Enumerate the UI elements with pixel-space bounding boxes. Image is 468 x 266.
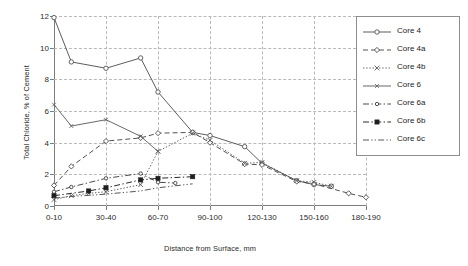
data-point xyxy=(375,66,380,71)
series-core-6 xyxy=(52,103,160,154)
data-point xyxy=(104,177,107,180)
data-point xyxy=(70,185,73,188)
data-point xyxy=(156,90,160,94)
legend-label: Core 4b xyxy=(397,62,425,71)
x-tick-label: 60-70 xyxy=(148,213,168,222)
legend-symbol-icon xyxy=(362,24,392,36)
data-point xyxy=(87,189,91,193)
legend-label: Core 6a xyxy=(397,98,425,107)
x-tick-mark xyxy=(158,206,159,210)
data-point xyxy=(363,195,368,200)
legend-label: Core 4 xyxy=(397,26,421,35)
legend-symbol-icon xyxy=(362,42,392,54)
data-point xyxy=(52,15,56,19)
x-tick-mark xyxy=(366,206,367,210)
data-point xyxy=(138,56,142,60)
data-point xyxy=(104,186,108,190)
chart-legend: Core 4Core 4aCore 4bCore 6Core 6aCore 6b… xyxy=(356,16,460,156)
legend-label: Core 6b xyxy=(397,116,425,125)
legend-symbol-icon xyxy=(362,96,392,108)
data-point xyxy=(191,175,195,179)
legend-symbol-icon xyxy=(362,60,392,72)
legend-symbol-icon xyxy=(362,132,392,144)
x-tick-label: 0-10 xyxy=(46,213,62,222)
y-tick-label: 12 xyxy=(40,12,49,21)
data-point xyxy=(139,172,142,175)
legend-label: Core 4a xyxy=(397,44,425,53)
y-tick-label: 0 xyxy=(45,202,49,211)
data-point xyxy=(375,102,378,105)
data-point xyxy=(155,131,160,136)
data-point xyxy=(52,190,55,193)
legend-label: Core 6c xyxy=(397,134,425,143)
x-tick-label: 180-190 xyxy=(351,213,380,222)
y-tick-label: 4 xyxy=(45,138,49,147)
legend-symbol-icon xyxy=(362,78,392,90)
data-point xyxy=(242,144,246,148)
x-axis-title: Distance from Surface, mm xyxy=(54,244,366,253)
data-point xyxy=(52,103,56,107)
legend-item-core-6[interactable]: Core 6 xyxy=(357,75,459,93)
data-point xyxy=(156,149,160,153)
data-point xyxy=(69,60,73,64)
legend-item-core-6b[interactable]: Core 6b xyxy=(357,111,459,129)
plot-area: 0246810120-1030-4060-7090-100120-130150-… xyxy=(54,16,366,206)
data-lines xyxy=(54,16,366,206)
x-tick-label: 30-40 xyxy=(96,213,116,222)
y-tick-label: 6 xyxy=(45,107,49,116)
legend-item-core-4a[interactable]: Core 4a xyxy=(357,39,459,57)
legend-label: Core 6 xyxy=(397,80,421,89)
data-point xyxy=(346,191,351,196)
data-point xyxy=(242,161,247,166)
data-point xyxy=(374,47,379,52)
legend-item-core-6c[interactable]: Core 6c xyxy=(357,129,459,147)
data-point xyxy=(156,181,159,184)
x-tick-mark xyxy=(210,206,211,210)
x-tick-mark xyxy=(262,206,263,210)
legend-symbol-icon xyxy=(362,114,392,126)
chloride-profile-chart: Total Chloride, % of Cement Distance fro… xyxy=(0,0,468,266)
data-point xyxy=(174,181,177,184)
legend-item-core-4b[interactable]: Core 4b xyxy=(357,57,459,75)
x-tick-mark xyxy=(314,206,315,210)
x-tick-mark xyxy=(106,206,107,210)
legend-item-core-4[interactable]: Core 4 xyxy=(357,21,459,39)
x-tick-label: 150-160 xyxy=(299,213,328,222)
data-point xyxy=(375,120,379,124)
series-line xyxy=(54,18,331,187)
series-core-4b xyxy=(52,131,334,202)
data-point xyxy=(375,30,379,34)
y-tick-label: 8 xyxy=(45,75,49,84)
y-tick-label: 2 xyxy=(45,170,49,179)
data-point xyxy=(104,66,108,70)
x-tick-mark xyxy=(54,206,55,210)
data-point xyxy=(208,133,212,137)
data-point xyxy=(52,194,56,198)
y-tick-label: 10 xyxy=(40,43,49,52)
x-tick-label: 120-130 xyxy=(247,213,276,222)
x-tick-label: 90-100 xyxy=(198,213,223,222)
y-axis-title: Total Chloride, % of Cement xyxy=(22,43,31,183)
data-point xyxy=(156,176,160,180)
data-point xyxy=(139,178,143,182)
series-core-4 xyxy=(52,15,334,188)
legend-item-core-6a[interactable]: Core 6a xyxy=(357,93,459,111)
